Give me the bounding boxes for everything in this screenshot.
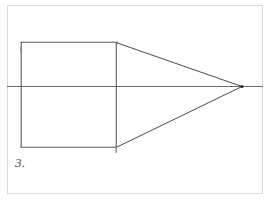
vanishing-point [240, 85, 243, 88]
perspective-construction-drawing [0, 0, 270, 206]
figure-number-label: 3. [15, 155, 26, 171]
paper-background [0, 0, 270, 206]
perspective-drawing-figure: 3. [0, 0, 270, 206]
